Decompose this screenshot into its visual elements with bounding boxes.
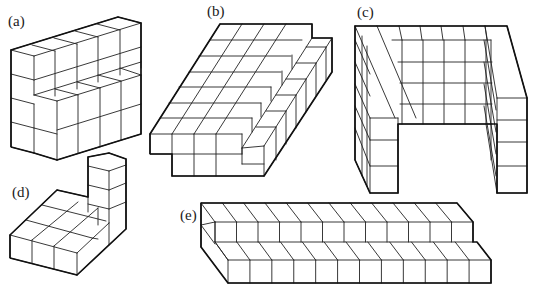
figure-label-b: (b) [207,4,225,19]
figure-b-cube-block [150,24,332,176]
diagram-canvas [0,0,535,289]
figure-label-e: (e) [180,208,197,223]
figure-label-d: (d) [12,185,30,200]
figure-label-c: (c) [357,5,374,20]
figure-d-cube-block [10,153,126,275]
figure-c-cube-block [355,26,527,193]
figure-label-a: (a) [8,14,25,29]
figure-a-cube-block [11,17,141,160]
figure-e-cube-block [201,203,491,283]
